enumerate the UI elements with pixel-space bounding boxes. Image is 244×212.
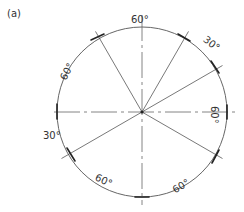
label-upper-right: 30°: [201, 34, 222, 54]
radial-120: [96, 31, 143, 112]
label-lower-left: 60°: [93, 172, 114, 189]
label-top: 60°: [131, 14, 149, 25]
center-point: [140, 110, 143, 113]
label-lower-right: 60°: [171, 177, 192, 195]
radial-60: [142, 31, 189, 112]
arrow-minus30: [212, 150, 219, 163]
label-upper-left: 60°: [58, 61, 76, 82]
label-left: 30°: [43, 130, 61, 141]
angle-diagram: 60° 30° 60° 60° 60° 30° 60°: [0, 0, 244, 212]
radial-210: [62, 112, 143, 159]
label-right: 60°: [209, 106, 220, 124]
